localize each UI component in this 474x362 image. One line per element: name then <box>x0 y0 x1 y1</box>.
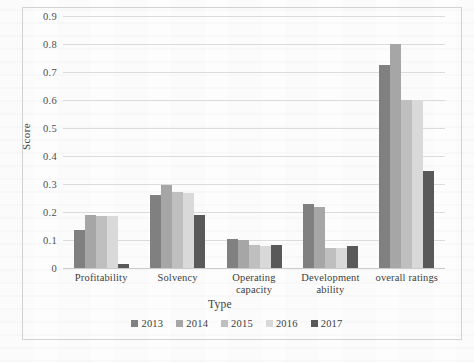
bar <box>303 204 314 268</box>
bar <box>249 245 260 268</box>
y-axis-tick-label: 0.3 <box>19 179 57 190</box>
bar <box>118 264 129 268</box>
legend-label: 2017 <box>321 318 343 329</box>
y-axis-tick-label: 0.4 <box>19 151 57 162</box>
bar <box>172 192 183 268</box>
bar <box>74 230 85 268</box>
legend-item-2016[interactable]: 2016 <box>266 318 298 329</box>
legend-swatch-icon <box>131 320 138 327</box>
legend-item-2017[interactable]: 2017 <box>311 318 343 329</box>
x-axis-category-label: overall ratings <box>369 272 445 284</box>
y-axis-tick-label: 0.1 <box>19 235 57 246</box>
bar-group <box>150 16 205 268</box>
x-axis-category-label: Solvency <box>139 272 215 284</box>
x-axis-category-label: Operating capacity <box>216 272 292 295</box>
bar <box>161 185 172 268</box>
legend-item-2015[interactable]: 2015 <box>221 318 253 329</box>
category-label-line: Development <box>292 272 368 284</box>
bar <box>412 100 423 268</box>
x-axis-category-label: Developmentability <box>292 272 368 295</box>
category-label-line: Operating capacity <box>216 272 292 295</box>
y-axis-tick-label: 0.8 <box>19 39 57 50</box>
bar <box>336 248 347 268</box>
bar <box>401 100 412 268</box>
axis-baseline <box>63 268 445 269</box>
bar <box>390 44 401 268</box>
x-axis-title: Type <box>0 298 440 310</box>
chart-legend: 20132014201520162017 <box>0 318 474 329</box>
legend-label: 2014 <box>186 318 208 329</box>
bar <box>347 246 358 268</box>
bar-group <box>74 16 129 268</box>
y-axis-tick-label: 0.7 <box>19 67 57 78</box>
bar <box>238 240 249 268</box>
bar-group <box>303 16 358 268</box>
bar <box>314 207 325 268</box>
bar-group <box>227 16 282 268</box>
bar-series-container <box>63 16 445 268</box>
legend-swatch-icon <box>221 320 228 327</box>
bar <box>423 171 434 268</box>
y-axis-tick-label: 0 <box>19 263 57 274</box>
category-label-line: ability <box>292 284 368 296</box>
category-label-line: Profitability <box>63 272 139 284</box>
bar <box>325 248 336 268</box>
category-label-line: Solvency <box>139 272 215 284</box>
bar <box>227 239 238 268</box>
legend-label: 2016 <box>276 318 298 329</box>
bar-group <box>379 16 434 268</box>
legend-label: 2013 <box>141 318 163 329</box>
bar <box>183 193 194 268</box>
category-label-line: overall ratings <box>369 272 445 284</box>
legend-swatch-icon <box>266 320 273 327</box>
bar <box>271 245 282 268</box>
bar <box>260 246 271 268</box>
legend-label: 2015 <box>231 318 253 329</box>
y-axis-tick-label: 0.9 <box>19 11 57 22</box>
y-axis-tick-label: 0.5 <box>19 123 57 134</box>
x-axis-category-label: Profitability <box>63 272 139 284</box>
legend-item-2014[interactable]: 2014 <box>176 318 208 329</box>
bar <box>85 215 96 268</box>
y-axis-tick-label: 0.2 <box>19 207 57 218</box>
y-axis-tick-label: 0.6 <box>19 95 57 106</box>
plot-area: 00.10.20.30.40.50.60.70.80.9 Profitabili… <box>63 16 445 268</box>
bar <box>379 65 390 268</box>
bar <box>96 216 107 268</box>
legend-swatch-icon <box>176 320 183 327</box>
bar <box>150 195 161 268</box>
chart-figure: Score Type 00.10.20.30.40.50.60.70.80.9 … <box>0 0 474 362</box>
legend-item-2013[interactable]: 2013 <box>131 318 163 329</box>
bar <box>107 216 118 268</box>
bar <box>194 215 205 268</box>
legend-swatch-icon <box>311 320 318 327</box>
